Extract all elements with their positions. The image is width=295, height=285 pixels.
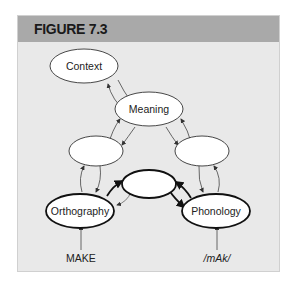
context-label: Context <box>66 60 102 72</box>
phonology-to-hidden-center-arrow <box>176 182 191 198</box>
hidden-left-to-orthography-arrow <box>96 166 101 192</box>
phonology-label: Phonology <box>191 205 241 217</box>
hidden-units-left-node <box>69 136 123 166</box>
hidden-units-center-node <box>122 170 176 198</box>
meaning-to-hidden-right-arrow <box>166 127 178 145</box>
orthography-to-hidden-left-arrow <box>80 166 84 192</box>
hidden-right-to-phonology-arrow <box>199 166 203 192</box>
phonology-input-label: /mAk/ <box>203 252 232 264</box>
phonology-to-hidden-right-arrow <box>214 166 219 192</box>
orthography-to-hidden-center-arrow <box>107 181 122 196</box>
triangle-model-diagram: Context Meaning Orthography Phonology MA… <box>0 0 295 285</box>
meaning-label: Meaning <box>129 103 169 115</box>
orthography-label: Orthography <box>51 205 110 217</box>
orthography-input-label: MAKE <box>66 252 96 264</box>
hidden-units-right-node <box>175 136 229 166</box>
meaning-to-hidden-left-arrow <box>122 127 135 145</box>
